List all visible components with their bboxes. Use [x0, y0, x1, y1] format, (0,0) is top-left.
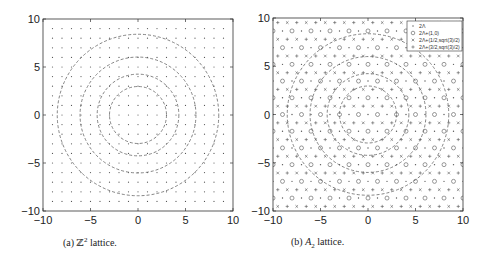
lattice-point — [80, 114, 81, 115]
marker-plus — [295, 188, 298, 191]
marker-plus — [400, 171, 403, 174]
marker-plus — [409, 188, 412, 191]
marker-dot — [386, 181, 387, 182]
lattice-point — [90, 124, 91, 125]
marker-dot — [424, 114, 425, 115]
marker-plus — [343, 105, 346, 108]
lattice-point — [109, 191, 110, 192]
lattice-point — [204, 86, 205, 87]
lattice-point — [137, 124, 138, 125]
lattice-point — [213, 143, 214, 144]
lattice-point — [118, 182, 119, 183]
marker-plus — [457, 138, 460, 141]
lattice-point — [99, 191, 100, 192]
lattice-point — [137, 86, 138, 87]
lattice-point — [109, 28, 110, 29]
lattice-point — [223, 105, 224, 106]
marker-circle — [404, 163, 408, 167]
marker-dot — [291, 181, 292, 182]
lattice-point — [128, 134, 129, 135]
lattice-point — [99, 134, 100, 135]
lattice-point — [118, 143, 119, 144]
marker-plus — [286, 205, 289, 208]
marker-plus — [333, 21, 336, 24]
lattice-point — [99, 153, 100, 154]
marker-plus — [390, 188, 393, 191]
marker-circle — [300, 113, 304, 117]
lattice-point — [213, 201, 214, 202]
marker-dot — [291, 147, 292, 148]
lattice-point — [71, 134, 72, 135]
lattice-point — [185, 191, 186, 192]
marker-x — [438, 88, 441, 91]
marker-circle — [366, 163, 370, 167]
marker-plus — [400, 71, 403, 74]
marker-dot — [405, 147, 406, 148]
marker-x — [343, 188, 346, 191]
marker-x — [343, 122, 346, 125]
caption-a-symbol: ℤ — [77, 237, 84, 248]
legend-entry: 2Λ — [419, 23, 426, 29]
lattice-point — [90, 86, 91, 87]
marker-x — [305, 122, 308, 125]
marker-plus — [381, 205, 384, 208]
marker-plus — [333, 155, 336, 158]
marker-x — [447, 205, 450, 208]
plot-b: −10−50510−10−505102Λ2Λ+(1,0)2Λ+(1/2,sqrt… — [251, 12, 469, 226]
marker-x — [428, 172, 431, 175]
lattice-point — [166, 182, 167, 183]
marker-circle — [366, 196, 370, 200]
marker-x — [390, 205, 393, 208]
lattice-point — [61, 57, 62, 58]
marker-circle — [338, 179, 342, 183]
marker-dot — [415, 97, 416, 98]
marker-x — [286, 155, 289, 158]
marker-plus — [333, 54, 336, 57]
lattice-point — [128, 201, 129, 202]
marker-circle — [442, 196, 446, 200]
lattice-point — [80, 182, 81, 183]
marker-x — [419, 122, 422, 125]
lattice-point — [61, 201, 62, 202]
marker-circle — [347, 163, 351, 167]
marker-circle — [309, 163, 313, 167]
marker-circle — [347, 96, 351, 100]
marker-circle — [452, 79, 456, 83]
marker-x — [305, 55, 308, 58]
marker-plus — [362, 205, 365, 208]
lattice-point — [156, 86, 157, 87]
lattice-point — [204, 191, 205, 192]
marker-plus — [371, 121, 374, 124]
lattice-point — [118, 76, 119, 77]
marker-circle — [366, 96, 370, 100]
marker-plus — [352, 21, 355, 24]
lattice-point — [118, 57, 119, 58]
marker-plus — [457, 105, 460, 108]
marker-plus — [295, 54, 298, 57]
lattice-point — [80, 66, 81, 67]
lattice-point — [118, 86, 119, 87]
lattice-point — [194, 153, 195, 154]
lattice-point — [194, 76, 195, 77]
marker-circle — [281, 179, 285, 183]
x-tick-label: 0 — [135, 214, 141, 226]
lattice-point — [137, 162, 138, 163]
lattice-point — [128, 153, 129, 154]
marker-plus — [295, 88, 298, 91]
lattice-point — [52, 66, 53, 67]
marker-plus — [362, 105, 365, 108]
lattice-point — [52, 162, 53, 163]
caption-b-prefix: (b) — [291, 236, 305, 247]
lattice-point — [204, 105, 205, 106]
marker-dot — [358, 197, 359, 198]
lattice-point — [204, 66, 205, 67]
lattice-point — [223, 28, 224, 29]
lattice-point — [223, 38, 224, 39]
marker-circle — [395, 146, 399, 150]
marker-dot — [301, 164, 302, 165]
plot-area — [52, 28, 224, 202]
legend-entry: 2Λ+(1/2,sqrt(3)/2) — [419, 37, 460, 43]
marker-dot — [348, 147, 349, 148]
marker-x — [428, 205, 431, 208]
lattice-point — [99, 124, 100, 125]
